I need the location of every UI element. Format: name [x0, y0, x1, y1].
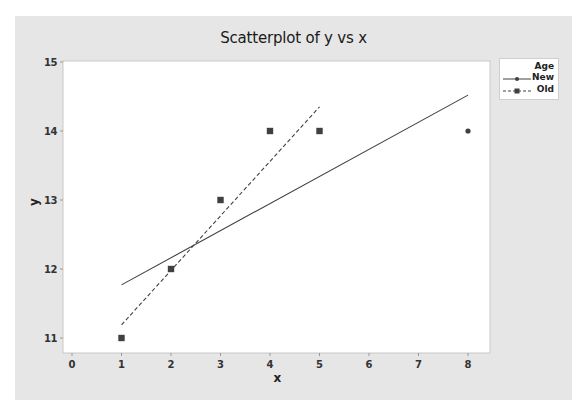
- x-tick-label: 5: [316, 359, 323, 370]
- x-tick-label: 7: [415, 359, 422, 370]
- x-tick-label: 1: [118, 359, 125, 370]
- legend-label-old: Old: [537, 84, 554, 94]
- x-tick-label: 3: [217, 359, 224, 370]
- y-tick-label: 11: [44, 333, 57, 344]
- data-point-new: [465, 128, 470, 133]
- data-point-old: [168, 266, 174, 272]
- legend-title: Age: [534, 61, 554, 71]
- y-tick-label: 15: [44, 57, 57, 68]
- x-tick-label: 0: [69, 359, 76, 370]
- scatter-plot: 0123456781112131415xy: [15, 16, 572, 400]
- data-point-old: [267, 128, 273, 134]
- legend-old-line-icon: [503, 86, 533, 96]
- y-tick-label: 14: [44, 126, 57, 137]
- data-point-old: [118, 335, 124, 341]
- data-point-old: [316, 128, 322, 134]
- plot-area: [63, 61, 490, 353]
- y-tick-label: 13: [44, 195, 57, 206]
- legend-label-new: New: [532, 72, 554, 82]
- legend: Age New Old: [499, 58, 559, 100]
- y-tick-label: 12: [44, 264, 57, 275]
- x-tick-label: 8: [465, 359, 472, 370]
- data-point-old: [217, 197, 223, 203]
- legend-new-line-icon: [503, 74, 533, 84]
- x-tick-label: 2: [168, 359, 175, 370]
- x-tick-label: 6: [366, 359, 373, 370]
- x-axis-label: x: [274, 371, 282, 385]
- y-axis-label: y: [27, 198, 41, 206]
- x-tick-label: 4: [267, 359, 274, 370]
- chart-panel: Scatterplot of y vs x 012345678111213141…: [15, 16, 572, 400]
